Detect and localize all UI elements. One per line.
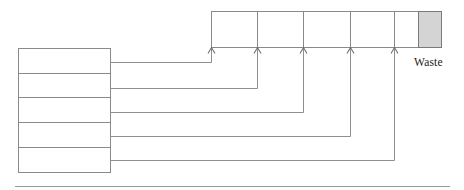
reservoir-row-4 xyxy=(19,123,111,148)
flow-injection-diagram: Waste xyxy=(0,0,464,190)
connector-5 xyxy=(110,48,395,161)
rail-cell-2 xyxy=(258,12,304,48)
rail-cell-waste xyxy=(418,12,441,48)
reservoir-row-1 xyxy=(19,49,111,74)
rail-cell-1 xyxy=(212,12,258,48)
reservoir-row-5 xyxy=(19,147,111,172)
reservoir-row-3 xyxy=(19,98,111,123)
connector-1 xyxy=(110,48,212,63)
connector-group xyxy=(110,48,395,161)
rail-cell-3 xyxy=(304,12,351,48)
manifold-rail xyxy=(212,12,442,48)
connector-3 xyxy=(110,48,304,113)
connector-2 xyxy=(110,48,258,89)
diagram-canvas: Waste xyxy=(0,0,464,190)
waste-label: Waste xyxy=(414,56,443,68)
reservoir-row-2 xyxy=(19,73,111,98)
reservoir-stack xyxy=(19,49,111,173)
connector-4 xyxy=(110,48,351,137)
rail-cell-5 xyxy=(394,12,418,48)
rail-cell-4 xyxy=(350,12,394,48)
